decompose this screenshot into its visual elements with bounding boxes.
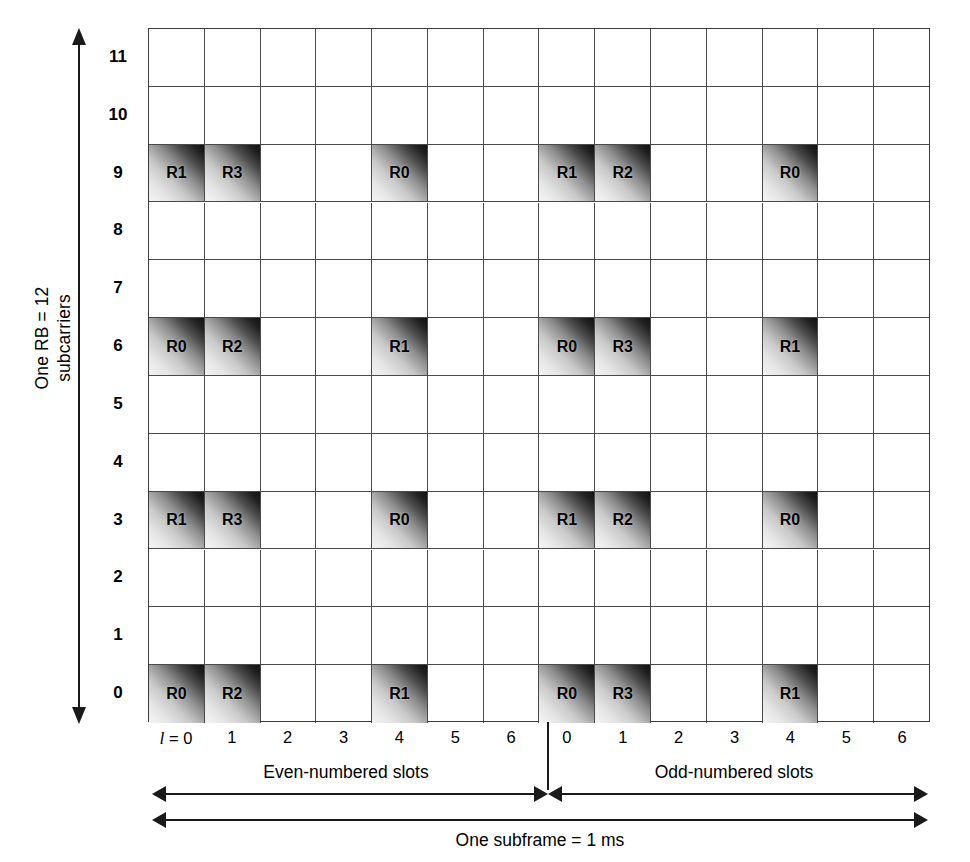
reference-signal-cell: R0 xyxy=(539,318,595,376)
grid-row xyxy=(149,260,929,318)
reference-signal-label: R2 xyxy=(595,511,650,529)
reference-signal-cell: R0 xyxy=(149,318,205,376)
resource-element-cell xyxy=(484,376,540,434)
reference-signal-cell: R1 xyxy=(149,492,205,550)
resource-element-cell xyxy=(316,434,372,492)
resource-element-cell xyxy=(484,260,540,318)
reference-signal-cell: R1 xyxy=(539,492,595,550)
resource-element-cell xyxy=(149,376,205,434)
resource-element-cell xyxy=(316,492,372,550)
resource-element-cell xyxy=(261,260,317,318)
grid-row: R0R2R1R0R3R1 xyxy=(149,318,929,376)
subcarrier-label: 10 xyxy=(96,105,140,125)
reference-signal-cell: R2 xyxy=(595,145,651,203)
grid-row: R1R3R0R1R2R0 xyxy=(149,492,929,550)
resource-element-cell xyxy=(484,87,540,145)
resource-element-cell xyxy=(261,87,317,145)
resource-element-cell xyxy=(539,203,595,261)
symbol-index-labels: l = 01234560123456 xyxy=(148,728,930,754)
resource-element-cell xyxy=(372,260,428,318)
resource-element-cell xyxy=(261,550,317,608)
arrow-head-right-icon xyxy=(914,812,928,828)
resource-element-cell xyxy=(149,550,205,608)
resource-element-cell xyxy=(763,203,819,261)
resource-element-cell xyxy=(874,492,929,550)
reference-signal-cell: R0 xyxy=(763,145,819,203)
arrow-shaft xyxy=(557,793,919,795)
resource-element-cell xyxy=(261,492,317,550)
resource-element-cell xyxy=(651,492,707,550)
resource-element-cell xyxy=(484,145,540,203)
resource-element-cell xyxy=(707,203,763,261)
resource-element-cell xyxy=(372,434,428,492)
reference-signal-label: R1 xyxy=(763,338,818,356)
resource-element-cell xyxy=(428,203,484,261)
reference-signal-cell: R2 xyxy=(205,318,261,376)
symbol-index-label: 5 xyxy=(818,728,874,754)
resource-element-cell xyxy=(651,665,707,723)
reference-signal-label: R0 xyxy=(149,338,204,356)
resource-element-cell xyxy=(707,492,763,550)
subcarrier-label: 3 xyxy=(96,510,140,530)
resource-element-cell xyxy=(874,29,929,87)
resource-element-cell xyxy=(205,260,261,318)
slot-caption: Even-numbered slots xyxy=(152,762,540,786)
resource-element-cell xyxy=(428,492,484,550)
resource-element-cell xyxy=(428,607,484,665)
reference-signal-cell: R3 xyxy=(205,145,261,203)
reference-signal-cell: R0 xyxy=(763,492,819,550)
resource-element-cell xyxy=(205,607,261,665)
resource-element-cell xyxy=(261,203,317,261)
reference-signal-label: R0 xyxy=(372,511,427,529)
resource-element-cell xyxy=(261,665,317,723)
resource-element-cell xyxy=(316,260,372,318)
resource-element-cell xyxy=(818,434,874,492)
resource-element-cell xyxy=(595,434,651,492)
subframe-span-arrow xyxy=(152,812,928,828)
resource-element-cell xyxy=(595,550,651,608)
resource-element-cell xyxy=(874,550,929,608)
arrow-shaft xyxy=(161,793,539,795)
resource-element-cell xyxy=(818,665,874,723)
resource-element-cell xyxy=(205,376,261,434)
reference-signal-cell: R2 xyxy=(595,492,651,550)
resource-element-cell xyxy=(428,376,484,434)
resource-element-cell xyxy=(372,607,428,665)
grid-row xyxy=(149,607,929,665)
even-slot-span-arrow xyxy=(152,786,548,802)
reference-signal-label: R1 xyxy=(539,511,594,529)
resource-element-cell xyxy=(651,260,707,318)
resource-element-cell xyxy=(484,318,540,376)
resource-element-cell xyxy=(595,87,651,145)
subcarrier-label: 8 xyxy=(96,220,140,240)
resource-element-cell xyxy=(539,376,595,434)
resource-element-cell xyxy=(707,665,763,723)
resource-element-cell xyxy=(539,29,595,87)
reference-signal-label: R2 xyxy=(205,338,260,356)
resource-element-cell xyxy=(651,550,707,608)
slot-caption: Odd-numbered slots xyxy=(540,762,928,786)
symbol-variable-value: = 0 xyxy=(164,729,192,747)
resource-element-cell xyxy=(261,29,317,87)
reference-signal-cell: R0 xyxy=(149,665,205,723)
grid-row xyxy=(149,550,929,608)
resource-element-cell xyxy=(372,203,428,261)
reference-signal-label: R3 xyxy=(595,685,650,703)
resource-element-cell xyxy=(316,607,372,665)
resource-element-cell xyxy=(539,87,595,145)
resource-element-cell xyxy=(763,376,819,434)
reference-signal-label: R0 xyxy=(372,164,427,182)
subframe-caption: One subframe = 1 ms xyxy=(152,830,928,851)
resource-element-cell xyxy=(316,29,372,87)
symbol-index-label: 0 xyxy=(539,728,595,754)
grid-row xyxy=(149,87,929,145)
resource-element-cell xyxy=(707,318,763,376)
resource-element-cell xyxy=(874,203,929,261)
resource-element-cell xyxy=(763,29,819,87)
resource-element-grid: R1R3R0R1R2R0R0R2R1R0R3R1R1R3R0R1R2R0R0R2… xyxy=(148,28,930,722)
symbol-index-label: 2 xyxy=(651,728,707,754)
resource-element-cell xyxy=(316,376,372,434)
reference-signal-label: R1 xyxy=(372,685,427,703)
reference-signal-cell: R1 xyxy=(149,145,205,203)
reference-signal-cell: R3 xyxy=(595,318,651,376)
